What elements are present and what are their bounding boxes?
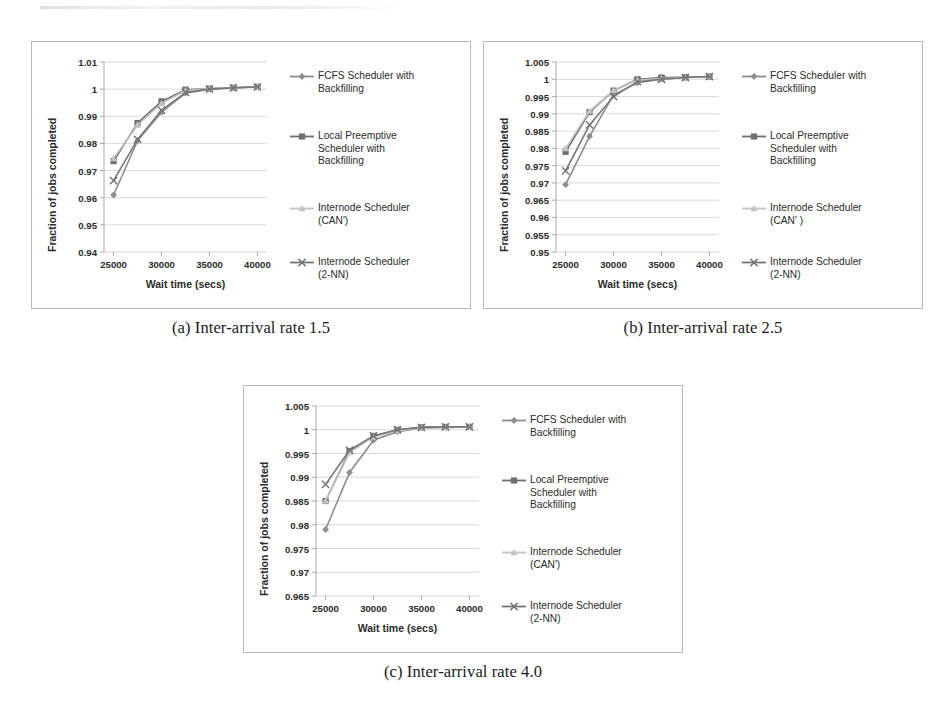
y-axis-label: Fraction of jobs completed	[46, 118, 58, 252]
x-tick-label: 35000	[408, 603, 435, 614]
y-tick-label: 0.95	[484, 247, 549, 258]
plot-area-c: 0.9650.970.9750.980.9850.990.99511.00525…	[244, 386, 489, 652]
y-tick-label: 0.98	[244, 519, 309, 530]
y-tick-label: 0.975	[484, 160, 549, 171]
y-tick-label: 0.96	[484, 212, 549, 223]
legend-marker-icon	[289, 202, 315, 215]
y-tick-label: 0.985	[484, 126, 549, 137]
legend-item-0[interactable]: FCFS Scheduler with Backfilling	[501, 414, 626, 439]
y-tick-label: 0.97	[32, 165, 97, 176]
y-tick-label: 1.01	[32, 57, 97, 68]
series-a-0	[110, 84, 261, 199]
legend-marker-icon	[289, 130, 315, 143]
scan-artifact	[40, 6, 400, 9]
y-tick-label: 0.94	[32, 247, 97, 258]
chart-frame-c: 0.9650.970.9750.980.9850.990.99511.00525…	[243, 385, 683, 653]
legend-item-1[interactable]: Local Preemptive Scheduler with Backfill…	[501, 474, 609, 512]
x-tick-label: 25000	[552, 259, 579, 270]
legend-item-3[interactable]: Internode Scheduler (2-NN)	[741, 256, 862, 281]
y-tick-label: 0.965	[244, 591, 309, 602]
y-tick-label: 0.99	[244, 472, 309, 483]
y-tick-label: 0.99	[32, 111, 97, 122]
y-tick-label: 1.005	[484, 57, 549, 68]
y-axis-label: Fraction of jobs completed	[258, 462, 270, 596]
figure-caption-b: (b) Inter-arrival rate 2.5	[483, 318, 923, 338]
legend-label: Internode Scheduler (2-NN)	[530, 600, 622, 625]
figure-a: 0.940.950.960.970.980.9911.0125000300003…	[31, 41, 471, 338]
legend-b: FCFS Scheduler with BackfillingLocal Pre…	[729, 42, 922, 308]
figure-caption-c: (c) Inter-arrival rate 4.0	[243, 662, 683, 682]
plot-area-b: 0.950.9550.960.9650.970.9750.980.9850.99…	[484, 42, 729, 308]
legend-label: Internode Scheduler (2-NN)	[770, 256, 862, 281]
x-tick-label: 30000	[600, 259, 627, 270]
legend-item-2[interactable]: Internode Scheduler (CAN')	[501, 546, 622, 571]
figure-caption-a: (a) Inter-arrival rate 1.5	[31, 318, 471, 338]
legend-item-3[interactable]: Internode Scheduler (2-NN)	[289, 256, 410, 281]
y-tick-label: 0.975	[244, 543, 309, 554]
chart-frame-b: 0.950.9550.960.9650.970.9750.980.9850.99…	[483, 41, 923, 309]
legend-marker-icon	[501, 414, 527, 427]
x-tick-label: 30000	[148, 259, 175, 270]
y-tick-label: 0.95	[32, 219, 97, 230]
y-tick-label: 1	[484, 74, 549, 85]
x-tick-label: 40000	[244, 259, 271, 270]
series-c-2	[322, 423, 473, 504]
chart-frame-a: 0.940.950.960.970.980.9911.0125000300003…	[31, 41, 471, 309]
y-tick-label: 0.99	[484, 108, 549, 119]
legend-item-3[interactable]: Internode Scheduler (2-NN)	[501, 600, 622, 625]
x-tick-label: 25000	[312, 603, 339, 614]
y-tick-label: 1	[32, 84, 97, 95]
y-tick-label: 0.995	[244, 448, 309, 459]
x-axis-label: Wait time (secs)	[104, 278, 267, 290]
y-axis-label: Fraction of jobs completed	[498, 118, 510, 252]
legend-label: Internode Scheduler (CAN')	[530, 546, 622, 571]
legend-item-0[interactable]: FCFS Scheduler with Backfilling	[741, 70, 866, 95]
legend-label: FCFS Scheduler with Backfilling	[770, 70, 866, 95]
y-tick-label: 0.97	[244, 567, 309, 578]
legend-label: Local Preemptive Scheduler with Backfill…	[318, 130, 397, 168]
series-c-1	[322, 424, 472, 504]
legend-marker-icon	[741, 130, 767, 143]
x-axis-label: Wait time (secs)	[556, 278, 719, 290]
legend-item-1[interactable]: Local Preemptive Scheduler with Backfill…	[289, 130, 397, 168]
legend-item-1[interactable]: Local Preemptive Scheduler with Backfill…	[741, 130, 849, 168]
plot-area-a: 0.940.950.960.970.980.9911.0125000300003…	[32, 42, 277, 308]
legend-marker-icon	[289, 70, 315, 83]
y-tick-label: 1.005	[244, 401, 309, 412]
series-b-0	[562, 73, 713, 188]
legend-marker-icon	[741, 70, 767, 83]
series-c-0	[322, 424, 473, 533]
y-tick-label: 0.96	[32, 192, 97, 203]
legend-marker-icon	[501, 474, 527, 487]
legend-item-2[interactable]: Internode Scheduler (CAN' )	[741, 202, 862, 227]
legend-label: Local Preemptive Scheduler with Backfill…	[770, 130, 849, 168]
legend-item-0[interactable]: FCFS Scheduler with Backfilling	[289, 70, 414, 95]
legend-label: Internode Scheduler (2-NN)	[318, 256, 410, 281]
legend-marker-icon	[501, 600, 527, 613]
y-tick-label: 0.965	[484, 195, 549, 206]
legend-item-2[interactable]: Internode Scheduler (CAN')	[289, 202, 410, 227]
legend-label: Internode Scheduler (CAN')	[318, 202, 410, 227]
legend-marker-icon	[501, 546, 527, 559]
legend-label: FCFS Scheduler with Backfilling	[530, 414, 626, 439]
x-tick-label: 30000	[360, 603, 387, 614]
legend-marker-icon	[741, 256, 767, 269]
y-tick-label: 0.98	[484, 143, 549, 154]
x-tick-label: 40000	[456, 603, 483, 614]
y-tick-label: 0.98	[32, 138, 97, 149]
y-tick-label: 0.97	[484, 177, 549, 188]
x-tick-label: 35000	[648, 259, 675, 270]
legend-c: FCFS Scheduler with BackfillingLocal Pre…	[489, 386, 682, 652]
y-tick-label: 0.985	[244, 496, 309, 507]
x-axis-label: Wait time (secs)	[316, 622, 479, 634]
figure-c: 0.9650.970.9750.980.9850.990.99511.00525…	[243, 385, 683, 682]
series-a-3	[110, 83, 261, 184]
figure-b: 0.950.9550.960.9650.970.9750.980.9850.99…	[483, 41, 923, 338]
y-tick-label: 1	[244, 424, 309, 435]
legend-label: Local Preemptive Scheduler with Backfill…	[530, 474, 609, 512]
legend-marker-icon	[741, 202, 767, 215]
y-tick-label: 0.995	[484, 91, 549, 102]
legend-marker-icon	[289, 256, 315, 269]
legend-label: Internode Scheduler (CAN' )	[770, 202, 862, 227]
legend-a: FCFS Scheduler with BackfillingLocal Pre…	[277, 42, 470, 308]
